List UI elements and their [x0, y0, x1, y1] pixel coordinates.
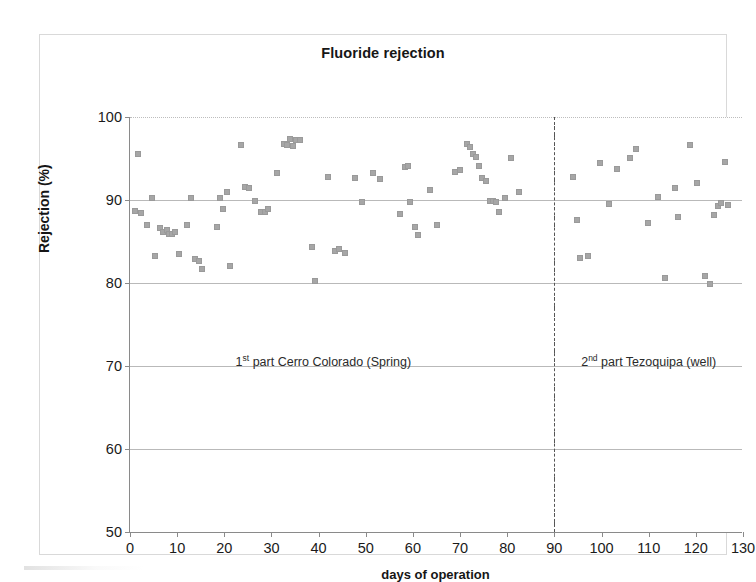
data-point	[662, 275, 668, 281]
x-tick-mark-90	[554, 532, 555, 537]
data-point	[606, 201, 612, 207]
x-tick-mark-40	[319, 532, 320, 537]
data-point	[290, 143, 296, 149]
x-tick-label-0: 0	[126, 540, 134, 556]
x-tick-label-80: 80	[499, 540, 515, 556]
data-point	[214, 224, 220, 230]
data-point	[407, 199, 413, 205]
data-point	[645, 220, 651, 226]
x-tick-label-50: 50	[358, 540, 374, 556]
data-point	[483, 178, 489, 184]
data-point	[342, 250, 348, 256]
y-tick-label-80: 80	[106, 275, 122, 291]
data-point	[132, 208, 138, 214]
gridline-y-80	[130, 283, 742, 284]
x-tick-label-20: 20	[216, 540, 232, 556]
x-tick-mark-110	[649, 532, 650, 537]
data-point	[722, 159, 728, 165]
data-point	[252, 198, 258, 204]
data-point	[718, 200, 724, 206]
data-point	[687, 142, 693, 148]
data-point	[184, 222, 190, 228]
data-point	[220, 206, 226, 212]
x-tick-mark-80	[507, 532, 508, 537]
x-tick-label-10: 10	[169, 540, 185, 556]
y-tick-mark-100	[125, 117, 130, 118]
x-tick-label-130: 130	[731, 540, 755, 556]
y-axis-title: Rejection (%)	[36, 164, 52, 253]
gridline-y-100	[130, 117, 742, 118]
data-point	[675, 214, 681, 220]
x-tick-label-60: 60	[405, 540, 421, 556]
data-point	[312, 278, 318, 284]
gridline-y-60	[130, 449, 742, 450]
data-point	[176, 251, 182, 257]
chart-title: Fluoride rejection	[40, 45, 726, 61]
x-tick-label-120: 120	[684, 540, 708, 556]
x-tick-mark-50	[366, 532, 367, 537]
data-point	[574, 217, 580, 223]
x-tick-label-110: 110	[637, 540, 660, 556]
data-point	[707, 281, 713, 287]
data-point	[725, 202, 731, 208]
y-tick-mark-60	[125, 449, 130, 450]
data-point	[246, 185, 252, 191]
scan-artifact	[24, 566, 144, 570]
data-point	[309, 244, 315, 250]
x-tick-label-40: 40	[311, 540, 327, 556]
x-tick-mark-60	[413, 532, 414, 537]
phase-2-label: 2nd part Tezoquipa (well)	[581, 355, 716, 369]
data-point	[188, 195, 194, 201]
x-tick-mark-100	[602, 532, 603, 537]
data-point	[633, 146, 639, 152]
data-point	[297, 137, 303, 143]
plot-area: 5060708090100 01020304050607080901001101…	[129, 117, 742, 532]
data-point	[227, 263, 233, 269]
data-point	[135, 151, 141, 157]
data-point	[694, 180, 700, 186]
data-point	[655, 194, 661, 200]
y-tick-label-60: 60	[106, 441, 122, 457]
data-point	[476, 163, 482, 169]
x-tick-mark-30	[271, 532, 272, 537]
data-point	[196, 258, 202, 264]
x-tick-mark-130	[743, 532, 744, 537]
data-point	[502, 195, 508, 201]
data-point	[570, 174, 576, 180]
x-tick-mark-0	[130, 532, 131, 537]
data-point	[274, 170, 280, 176]
data-point	[457, 167, 463, 173]
data-point	[516, 189, 522, 195]
data-point	[352, 175, 358, 181]
data-point	[597, 160, 603, 166]
data-point	[287, 136, 293, 142]
data-point	[152, 253, 158, 259]
data-point	[144, 222, 150, 228]
data-point	[585, 253, 591, 259]
data-point	[138, 210, 144, 216]
data-point	[405, 163, 411, 169]
data-point	[415, 232, 421, 238]
data-point	[412, 224, 418, 230]
data-point	[672, 185, 678, 191]
x-axis-title: days of operation	[129, 567, 742, 582]
data-point	[224, 189, 230, 195]
data-point	[508, 155, 514, 161]
data-point	[467, 144, 473, 150]
data-point	[614, 166, 620, 172]
phase-1-label: 1st part Cerro Colorado (Spring)	[236, 355, 411, 369]
data-point	[370, 170, 376, 176]
x-tick-label-30: 30	[263, 540, 279, 556]
data-point	[199, 266, 205, 272]
data-point	[493, 199, 499, 205]
figure-frame: Fluoride rejection Rejection (%) days of…	[39, 34, 727, 555]
gridline-y-50	[130, 532, 742, 533]
y-tick-mark-90	[125, 200, 130, 201]
y-tick-mark-70	[125, 366, 130, 367]
data-point	[149, 195, 155, 201]
data-point	[172, 229, 178, 235]
data-point	[577, 255, 583, 261]
x-tick-label-70: 70	[452, 540, 468, 556]
data-point	[702, 273, 708, 279]
data-point	[397, 211, 403, 217]
